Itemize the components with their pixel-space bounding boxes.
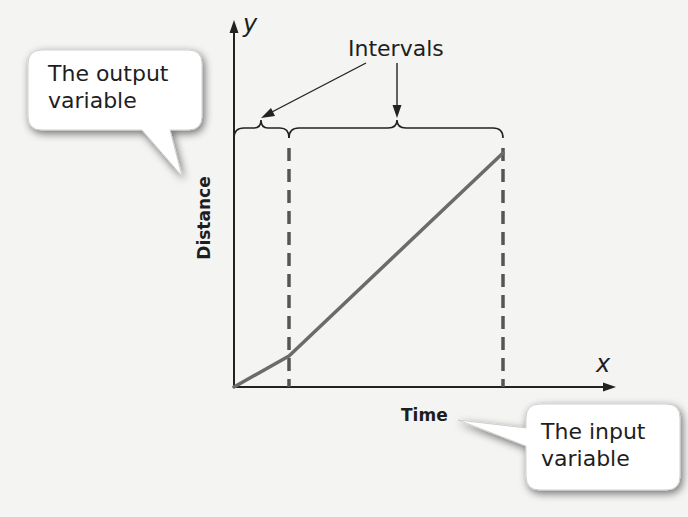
x-axis-arrow-icon	[603, 383, 616, 392]
interval-braces	[234, 120, 503, 138]
input-variable-callout-text: The input variable	[541, 418, 646, 472]
y-axis-arrow-icon	[230, 20, 239, 33]
y-axis-variable-label: y	[243, 10, 257, 38]
y-axis-title: Distance	[194, 168, 214, 268]
intervals-label: Intervals	[348, 36, 444, 61]
arrow-head-icon	[261, 108, 275, 118]
interval-pointer-arrows	[261, 63, 402, 118]
arrow-head-icon	[393, 105, 402, 118]
distance-time-diagram: y x Intervals Time Distance The output v…	[0, 0, 688, 517]
y-axis	[230, 20, 239, 388]
x-axis-title: Time	[401, 405, 448, 425]
x-axis-variable-label: x	[596, 350, 610, 378]
distance-time-line	[234, 153, 503, 387]
output-variable-callout-text: The output variable	[48, 60, 168, 114]
